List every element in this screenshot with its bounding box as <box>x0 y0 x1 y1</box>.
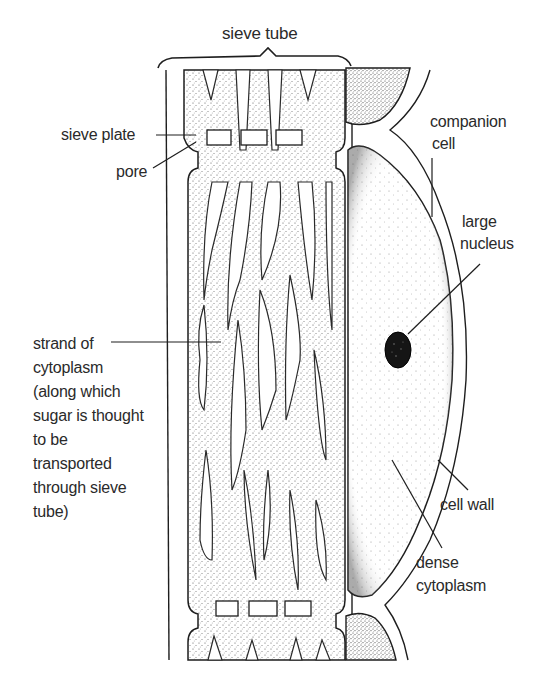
strand-line-7: through sieve <box>33 476 144 500</box>
sieve-plate-bottom <box>216 601 311 616</box>
label-large-nucleus-line2: nucleus <box>460 234 514 254</box>
label-sieve-plate: sieve plate <box>61 125 135 145</box>
sieve-tube-cytoplasm <box>184 70 345 660</box>
label-sieve-tube: sieve tube <box>222 24 298 44</box>
label-companion-cell-line1: companion <box>430 112 506 132</box>
strand-line-4: sugar is thought <box>33 404 144 428</box>
strand-line-3: (along which <box>33 380 144 404</box>
sieve-plate-top <box>207 130 302 145</box>
label-pore: pore <box>116 162 147 182</box>
label-strand-of-cytoplasm: strand of cytoplasm (along which sugar i… <box>33 332 144 524</box>
upper-companion-fragment <box>346 68 410 125</box>
strand-line-8: tube) <box>33 500 144 524</box>
strand-line-6: transported <box>33 452 144 476</box>
lower-companion-fragment <box>346 613 396 660</box>
strand-line-2: cytoplasm <box>33 356 144 380</box>
pore-leader <box>153 142 196 168</box>
label-cell-wall: cell wall <box>440 495 494 515</box>
strand-line-5: to be <box>33 428 144 452</box>
cell-wall-leader <box>438 460 468 490</box>
large-nucleus <box>385 332 411 368</box>
label-companion-cell-line2: cell <box>432 134 455 154</box>
label-dense-cytoplasm-line2: cytoplasm <box>416 576 486 596</box>
label-large-nucleus-line1: large <box>462 212 497 232</box>
label-dense-cytoplasm-line1: dense <box>416 553 459 573</box>
sieve-tube-bracket <box>158 48 351 68</box>
strand-line-1: strand of <box>33 332 144 356</box>
